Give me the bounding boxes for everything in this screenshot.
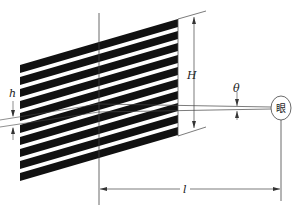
h-arrow-top — [11, 110, 15, 117]
H-arrow-bottom — [192, 121, 196, 128]
H-label: H — [186, 69, 197, 82]
h-arrow-bottom — [11, 127, 15, 134]
l-label: l — [183, 183, 187, 196]
grating-diagram: H θ h 眼 l — [0, 0, 295, 215]
h-label: h — [9, 87, 16, 100]
H-extension-top — [178, 11, 206, 19]
theta-label: θ — [233, 82, 240, 95]
eye-marker: 眼 — [271, 96, 291, 120]
diagram-canvas: H θ h 眼 l — [0, 0, 295, 215]
l-arrow-right — [273, 187, 280, 191]
H-arrow-top — [192, 17, 196, 24]
l-arrow-left — [100, 187, 107, 191]
H-extension-bottom — [178, 127, 206, 136]
eye-label: 眼 — [276, 103, 286, 114]
